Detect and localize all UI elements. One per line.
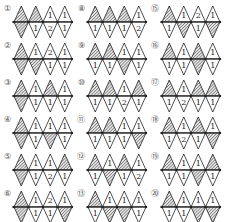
vertex-dot [116,21,118,23]
hatched-bottom-triangle [29,59,44,75]
figure-label: ⑯ [149,40,161,52]
triangle-value: 1 [93,135,98,144]
hatched-bottom-triangle [14,96,29,112]
vertex-dot [116,132,118,134]
triangle-strip: 11211 [14,190,74,222]
hatched-top-triangle [58,154,73,170]
hatched-top-triangle [103,6,118,22]
triangle-value: 1 [210,11,215,20]
vertex-dot [42,132,44,134]
hatched-top-triangle [117,6,132,22]
vertex-dot [145,169,147,171]
vertex-dot [42,21,44,23]
vertex-dot [27,132,29,134]
hatched-bottom-triangle [43,133,58,149]
vertex-dot [175,21,177,23]
triangle-value: 1 [33,196,38,205]
triangle-value: 1 [48,98,53,107]
triangle-value: 1 [181,172,186,181]
vertex-dot [204,58,206,60]
triangle-value: 1 [33,98,38,107]
triangle-value: 1 [196,24,201,33]
vertex-dot [175,169,177,171]
triangle-value: 1 [181,196,186,205]
triangle-strip: 11211 [14,5,74,39]
vertex-dot [42,169,44,171]
figure-label: ⑥ [1,188,13,200]
vertex-dot [71,206,73,208]
vertex-dot [13,21,15,23]
figure-10: ⑪11111 [74,113,148,150]
vertex-dot [116,95,118,97]
hatched-top-triangle [14,6,29,22]
vertex-dot [87,21,89,23]
triangle-value: 1 [62,11,67,20]
triangle-strip: 11111 [14,79,74,113]
vertex-dot [101,21,103,23]
vertex-dot [190,95,192,97]
triangle-value: 1 [136,48,141,57]
triangle-value: 2 [48,172,53,181]
hatched-top-triangle [191,117,206,133]
figure-label: ⑳ [149,188,161,200]
figure-15: ⑰11211 [148,76,222,113]
triangle-strip: 11211 [162,116,222,150]
figure-2: ②12111 [0,39,74,76]
triangle-value: 1 [210,196,215,205]
triangle-strip: 11111 [88,190,148,222]
triangle-value: 1 [136,61,141,70]
vertex-dot [190,169,192,171]
hatched-top-triangle [117,154,132,170]
vertex-dot [87,132,89,134]
triangle-value: 1 [33,172,38,181]
figure-label: ① [1,3,13,15]
hatched-bottom-triangle [132,133,147,149]
vertex-dot [71,58,73,60]
triangle-value: 1 [93,172,98,181]
triangle-value: 1 [167,209,172,218]
vertex-dot [204,169,206,171]
triangle-value: 1 [62,85,67,94]
hatched-top-triangle [162,80,177,96]
triangle-value: 2 [122,98,127,107]
triangle-value: 1 [62,135,67,144]
vertex-dot [42,206,44,208]
vertex-dot [219,132,221,134]
vertex-dot [42,58,44,60]
vertex-dot [219,21,221,23]
triangle-value: 1 [48,122,53,131]
hatched-top-triangle [14,154,29,170]
triangle-value: 1 [48,11,53,20]
figure-7: ⑧11112 [74,2,148,39]
triangle-value: 1 [107,98,112,107]
vertex-dot [13,95,15,97]
hatched-top-triangle [88,191,103,207]
vertex-dot [87,58,89,60]
vertex-dot [161,132,163,134]
vertex-dot [56,206,58,208]
hatched-top-triangle [14,191,29,207]
triangle-value: 1 [48,61,53,70]
hatched-bottom-triangle [14,133,29,149]
vertex-dot [219,58,221,60]
vertex-dot [87,169,89,171]
hatched-top-triangle [88,117,103,133]
figure-label: ⑤ [1,151,13,163]
hatched-top-triangle [88,43,103,59]
vertex-dot [190,21,192,23]
hatched-bottom-triangle [117,207,132,222]
vertex-dot [130,169,132,171]
triangle-value: 1 [181,61,186,70]
triangle-value: 2 [196,11,201,20]
hatched-bottom-triangle [103,207,118,222]
vertex-dot [219,95,221,97]
triangle-value: 1 [136,98,141,107]
figure-label: ③ [1,77,13,89]
triangle-value: 1 [167,98,172,107]
figure-label: ⑰ [149,77,161,89]
figure-label: ⑪ [75,114,87,126]
vertex-dot [101,169,103,171]
vertex-dot [27,206,29,208]
triangle-value: 1 [181,48,186,57]
pattern-grid: ①11211②12111③11111④11111⑤11121⑥11211⑧111… [0,0,228,222]
